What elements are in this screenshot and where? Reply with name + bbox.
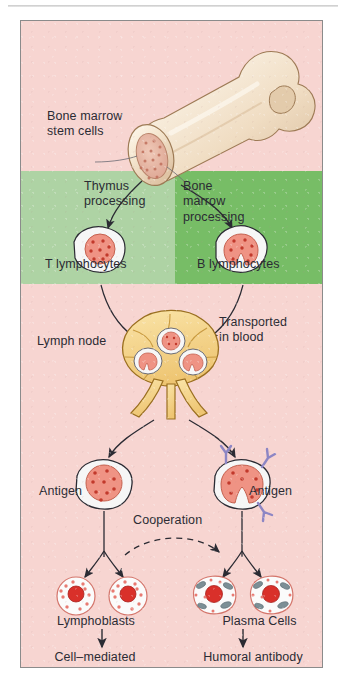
immunology-figure: Bone marrow stem cells Thymus processing… — [20, 20, 323, 668]
label-antigen-left: Antigen — [39, 484, 82, 499]
label-plasma-cells: Plasma Cells — [207, 614, 312, 629]
arrow-cooperation — [125, 538, 219, 555]
arrow-to-plasma-1 — [223, 551, 242, 577]
lymphoblast-cell — [57, 577, 95, 615]
lymph-node-cell — [134, 348, 162, 374]
femur-bone — [121, 51, 315, 190]
label-t-lymphocytes: T lymphocytes — [45, 257, 127, 272]
page-top-rule — [8, 5, 338, 7]
lymph-node-cell — [157, 328, 185, 354]
label-b-lymphocytes: B lymphocytes — [197, 257, 280, 272]
label-antigen-right: Antigen — [249, 484, 292, 499]
label-humoral-antibody-synthesis: Humoral antibody synthesis — [189, 650, 317, 668]
arrow-to-plasma-2 — [242, 551, 261, 577]
label-lymph-node: Lymph node — [37, 334, 106, 349]
arrow-to-lymphoblast-1 — [85, 551, 104, 577]
label-bone-marrow-processing: Bone marrow processing — [183, 179, 244, 225]
lymph-node-cell — [179, 349, 207, 375]
label-cooperation: Cooperation — [133, 513, 202, 528]
lymphoblast-cell — [109, 577, 147, 615]
label-lymphoblasts: Lymphoblasts — [41, 614, 151, 629]
diagram-page: Bone marrow stem cells Thymus processing… — [0, 0, 344, 685]
lymph-node — [123, 310, 219, 419]
label-bone-marrow-stem-cells: Bone marrow stem cells — [47, 109, 122, 140]
label-transported-in-blood: Transported in blood — [219, 315, 287, 346]
label-thymus-processing: Thymus processing — [84, 179, 145, 210]
arrow-node-to-tcell — [109, 420, 154, 457]
plasma-cell — [251, 576, 293, 614]
arrow-to-lymphoblast-2 — [104, 551, 123, 577]
plasma-cell — [194, 576, 236, 614]
activated-t-cell — [76, 460, 132, 509]
label-cell-mediated-reactions: Cell–mediated reactions — [35, 650, 155, 668]
